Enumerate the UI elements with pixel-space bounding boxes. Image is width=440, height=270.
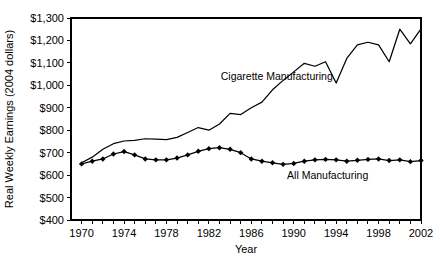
data-point-marker [153,157,158,162]
data-point-marker [174,155,179,160]
series-label-2: All Manufacturing [287,169,368,181]
data-series-group [79,29,424,167]
x-axis-ticks [82,220,421,224]
data-point-marker [238,150,243,155]
y-axis-title: Real Weekly Earnings (2004 dollars) [3,30,15,208]
data-point-marker [249,156,254,161]
x-tick-label: 2002 [409,227,433,239]
data-point-marker [185,152,190,157]
x-tick-label: 1978 [154,227,178,239]
data-point-marker [227,147,232,152]
data-point-marker [280,162,285,167]
data-point-marker [312,157,317,162]
x-tick-label: 1982 [197,227,221,239]
data-point-marker [418,158,423,163]
y-tick-label: $1,200 [30,34,64,46]
y-tick-label: $1,300 [30,12,64,24]
data-point-marker [270,160,275,165]
data-point-marker [196,149,201,154]
x-tick-label: 1974 [112,227,136,239]
data-point-marker [291,161,296,166]
y-tick-label: $1,000 [30,79,64,91]
y-tick-label: $600 [40,169,64,181]
data-point-marker [164,157,169,162]
data-point-marker [217,145,222,150]
y-tick-label: $400 [40,214,64,226]
data-point-marker [132,152,137,157]
data-point-marker [121,149,126,154]
data-point-marker [365,157,370,162]
data-point-marker [90,158,95,163]
series-label-1: Cigarette Manufacturing [221,70,333,82]
data-point-marker [143,156,148,161]
x-tick-label: 1998 [366,227,390,239]
data-point-marker [408,159,413,164]
data-point-marker [111,151,116,156]
x-tick-label: 1990 [281,227,305,239]
data-point-marker [259,158,264,163]
x-tick-label: 1994 [324,227,348,239]
data-point-marker [355,158,360,163]
x-tick-label: 1986 [239,227,263,239]
series-2 [79,145,424,167]
data-point-marker [100,156,105,161]
y-tick-label: $800 [40,124,64,136]
x-axis-tick-labels: 197019741978198219861990199419982002 [69,227,433,239]
data-point-marker [333,157,338,162]
x-tick-label: 1970 [69,227,93,239]
y-tick-label: $500 [40,192,64,204]
data-point-marker [323,157,328,162]
chart-figure: $400$500$600$700$800$900$1,000$1,100$1,2… [0,0,440,270]
series-line [82,29,421,163]
data-point-marker [376,156,381,161]
y-axis-ticks [67,18,71,220]
data-point-marker [206,146,211,151]
x-axis-title: Year [235,243,258,255]
y-tick-label: $900 [40,102,64,114]
series-line [82,148,421,165]
line-chart: $400$500$600$700$800$900$1,000$1,100$1,2… [0,0,440,270]
data-point-marker [302,158,307,163]
series-1 [82,29,421,163]
data-point-marker [397,157,402,162]
y-tick-label: $700 [40,147,64,159]
data-point-marker [344,158,349,163]
y-tick-label: $1,100 [30,57,64,69]
y-axis-tick-labels: $400$500$600$700$800$900$1,000$1,100$1,2… [30,12,64,226]
plot-frame [71,18,421,220]
data-point-marker [386,158,391,163]
plot-border [71,18,421,220]
